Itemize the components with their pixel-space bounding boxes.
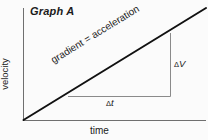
delta-v-annotation: ΔV <box>174 59 185 69</box>
y-axis-label: velocity <box>0 46 12 102</box>
delta-v-variable: V <box>179 58 185 69</box>
delta-t-variable: t <box>111 97 114 108</box>
velocity-time-graph-figure: Graph A velocity time gradient = acceler… <box>0 0 208 140</box>
delta-t-annotation: Δt <box>106 98 114 108</box>
page-title: Graph A <box>30 6 74 17</box>
x-axis-label: time <box>90 126 109 136</box>
